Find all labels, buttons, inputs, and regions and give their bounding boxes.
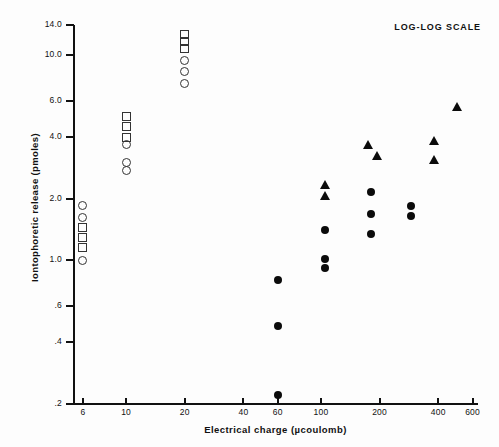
- y-tick-label: 6.0: [28, 96, 62, 105]
- y-tick: [66, 259, 74, 261]
- x-tick: [379, 398, 381, 405]
- data-point-open-square: [122, 122, 131, 131]
- data-point-filled-circle: [274, 276, 282, 284]
- data-point-open-square: [122, 133, 131, 142]
- x-tick-label: 100: [301, 408, 341, 417]
- y-tick: [66, 100, 74, 102]
- y-tick: [66, 136, 74, 138]
- data-point-filled-circle: [367, 230, 375, 238]
- x-axis-line: [73, 403, 478, 405]
- data-point-filled-triangle: [372, 151, 382, 160]
- data-point-filled-circle: [274, 322, 282, 330]
- x-tick: [82, 398, 84, 405]
- y-tick-label: 10.0: [28, 50, 62, 59]
- y-tick-label: .6: [28, 301, 62, 310]
- y-tick-label: 1.0: [28, 255, 62, 264]
- y-tick-label: 2.0: [28, 194, 62, 203]
- data-point-filled-circle: [367, 210, 375, 218]
- data-point-filled-triangle: [452, 102, 462, 111]
- x-tick-label: 6: [63, 408, 103, 417]
- x-tick: [277, 398, 279, 405]
- x-tick: [320, 398, 322, 405]
- data-point-open-square: [122, 112, 131, 121]
- data-point-filled-triangle: [320, 180, 330, 189]
- log-log-scale-note: LOG-LOG SCALE: [394, 22, 481, 32]
- data-point-filled-triangle: [429, 136, 439, 145]
- x-tick: [472, 398, 474, 405]
- y-tick: [66, 198, 74, 200]
- x-axis-title: Electrical charge (µcoulomb): [73, 424, 478, 435]
- data-point-filled-circle: [407, 202, 415, 210]
- x-tick-label: 20: [165, 408, 205, 417]
- data-point-filled-circle: [367, 188, 375, 196]
- data-point-filled-triangle: [429, 155, 439, 164]
- x-tick-label: 600: [453, 408, 493, 417]
- x-tick: [184, 398, 186, 405]
- x-tick-label: 10: [106, 408, 146, 417]
- data-point-open-square: [78, 223, 87, 232]
- x-tick: [437, 398, 439, 405]
- y-tick: [66, 24, 74, 26]
- y-tick: [66, 403, 74, 405]
- data-point-filled-circle: [274, 391, 282, 399]
- data-point-open-circle: [122, 166, 131, 175]
- data-point-filled-circle: [407, 212, 415, 220]
- chart-figure: Iontophoretic release (pmoles) Electrica…: [0, 0, 499, 447]
- data-point-open-circle: [180, 67, 189, 76]
- y-tick: [66, 341, 74, 343]
- y-axis-line: [73, 25, 75, 405]
- data-point-filled-triangle: [320, 191, 330, 200]
- data-point-open-square: [78, 243, 87, 252]
- data-point-open-circle: [78, 213, 87, 222]
- y-tick-label: 14.0: [28, 20, 62, 29]
- data-point-filled-circle: [321, 255, 329, 263]
- x-tick-label: 60: [258, 408, 298, 417]
- x-tick-label: 200: [360, 408, 400, 417]
- x-tick: [242, 398, 244, 405]
- y-tick-label: .4: [28, 337, 62, 346]
- y-tick-label: .2: [28, 399, 62, 408]
- x-tick: [125, 398, 127, 405]
- y-tick-label: 4.0: [28, 132, 62, 141]
- y-axis-title: Iontophoretic release (pmoles): [29, 88, 40, 328]
- data-point-open-square: [78, 233, 87, 242]
- data-point-open-circle: [180, 56, 189, 65]
- data-point-open-circle: [78, 256, 87, 265]
- data-point-open-circle: [78, 201, 87, 210]
- data-point-open-square: [180, 44, 189, 53]
- data-point-filled-circle: [321, 264, 329, 272]
- data-point-filled-circle: [321, 226, 329, 234]
- data-point-open-circle: [180, 79, 189, 88]
- y-tick: [66, 305, 74, 307]
- data-point-filled-triangle: [363, 140, 373, 149]
- y-tick: [66, 54, 74, 56]
